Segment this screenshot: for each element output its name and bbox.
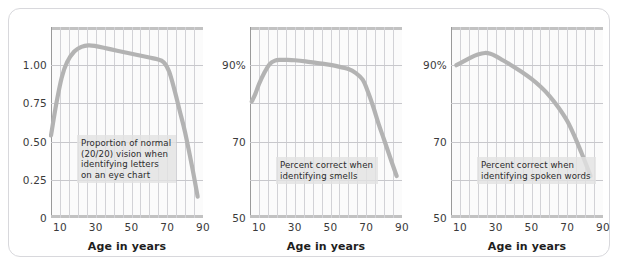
plot-area-panel-1: Proportion of normal (20/20) vision when… bbox=[51, 27, 203, 218]
x-axis-tick-label: 50 bbox=[321, 221, 341, 233]
y-axis-tick-label: 0.50 bbox=[23, 136, 47, 148]
y-axis-tick-label: 50 bbox=[232, 212, 246, 224]
plot-area-panel-3: Percent correct when identifying spoken … bbox=[451, 27, 603, 218]
y-axis-tick-label: 90% bbox=[222, 59, 246, 71]
chart-panel-hearing: 507090% Percent correct when identifying… bbox=[413, 9, 618, 258]
x-axis-tick-label: 30 bbox=[86, 221, 106, 233]
data-curve bbox=[451, 27, 603, 218]
x-axis-tick-label: 90 bbox=[392, 221, 412, 233]
curve-annotation-label: Percent correct when identifying spoken … bbox=[477, 157, 596, 184]
x-axis-title-panel-3: Age in years bbox=[451, 240, 603, 253]
x-axis-tick-label: 70 bbox=[356, 221, 376, 233]
x-axis-labels-panel-1: 1030507090 bbox=[51, 221, 203, 237]
y-axis-tick-label: 0.75 bbox=[23, 97, 47, 109]
chart-panel-smell: 507090% Percent correct when identifying… bbox=[212, 9, 417, 258]
x-axis-tick-label: 30 bbox=[486, 221, 506, 233]
x-axis-tick-label: 10 bbox=[249, 221, 269, 233]
data-curve bbox=[51, 27, 203, 218]
y-axis-tick-label: 70 bbox=[232, 136, 246, 148]
curve-annotation-label: Proportion of normal (20/20) vision when… bbox=[77, 135, 176, 183]
plot-area-panel-2: Percent correct when identifying smells bbox=[250, 27, 402, 218]
y-axis-tick-label: 70 bbox=[433, 136, 447, 148]
chart-panel-vision: 00.250.500.751.00 Proportion of normal (… bbox=[13, 9, 218, 258]
y-axis-labels-panel-1: 00.250.500.751.00 bbox=[13, 9, 47, 218]
figure-frame: 00.250.500.751.00 Proportion of normal (… bbox=[8, 8, 610, 257]
x-axis-tick-label: 50 bbox=[522, 221, 542, 233]
y-axis-tick-label: 1.00 bbox=[23, 59, 47, 71]
x-axis-tick-label: 50 bbox=[122, 221, 142, 233]
y-axis-tick-label: 0.25 bbox=[23, 174, 47, 186]
y-axis-tick-label: 0 bbox=[40, 212, 47, 224]
x-axis-tick-label: 90 bbox=[593, 221, 613, 233]
curve-annotation-label: Percent correct when identifying smells bbox=[276, 157, 378, 184]
x-axis-title-panel-2: Age in years bbox=[250, 240, 402, 253]
x-axis-tick-label: 90 bbox=[193, 221, 213, 233]
x-axis-tick-label: 70 bbox=[157, 221, 177, 233]
x-axis-tick-label: 70 bbox=[557, 221, 577, 233]
y-axis-tick-label: 50 bbox=[433, 212, 447, 224]
y-axis-labels-panel-3: 507090% bbox=[413, 9, 447, 218]
y-axis-tick-label: 90% bbox=[423, 59, 447, 71]
x-axis-tick-label: 10 bbox=[50, 221, 70, 233]
x-axis-labels-panel-2: 1030507090 bbox=[250, 221, 402, 237]
x-axis-tick-label: 30 bbox=[285, 221, 305, 233]
x-axis-title-panel-1: Age in years bbox=[51, 240, 203, 253]
y-axis-labels-panel-2: 507090% bbox=[212, 9, 246, 218]
data-curve bbox=[250, 27, 402, 218]
x-axis-labels-panel-3: 1030507090 bbox=[451, 221, 603, 237]
x-axis-tick-label: 10 bbox=[450, 221, 470, 233]
